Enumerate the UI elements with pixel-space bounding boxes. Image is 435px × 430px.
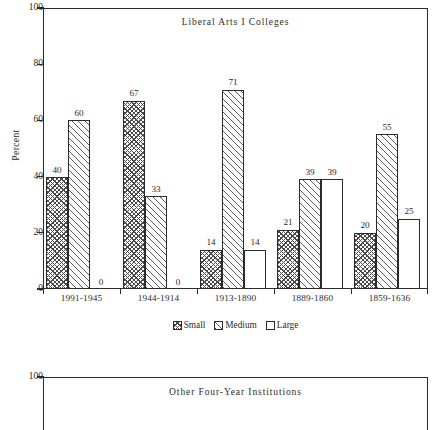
bar-large-1889-1860 bbox=[321, 179, 343, 289]
x-axis-label-1991-1945: 1991-1945 bbox=[43, 293, 120, 303]
legend-item-medium: Medium bbox=[214, 320, 257, 330]
bar-label-large-1889-1860: 39 bbox=[321, 168, 343, 177]
bar-label-small-1991-1945: 40 bbox=[46, 166, 68, 175]
y-tick-label: 80 bbox=[7, 59, 43, 69]
bar-label-medium-1889-1860: 39 bbox=[299, 168, 321, 177]
legend-swatch-medium-icon bbox=[214, 321, 223, 330]
bar-label-medium-1859-1636: 55 bbox=[376, 123, 398, 132]
bar-label-large-1991-1945: 0 bbox=[90, 278, 112, 287]
legend-swatch-large-icon bbox=[266, 321, 275, 330]
chart-title-panel2: Other Four-Year Institutions bbox=[43, 387, 428, 397]
bar-label-medium-1991-1945: 60 bbox=[68, 109, 90, 118]
y-tick-label: 40 bbox=[7, 172, 43, 182]
legend-label-medium: Medium bbox=[225, 320, 257, 330]
y-tick-label: 60 bbox=[7, 115, 43, 125]
y-tick-label: 0 bbox=[7, 284, 43, 294]
chart-panel-other-four-year: 100 Other Four-Year Institutions bbox=[0, 360, 435, 430]
figure-container: Liberal Arts I Colleges Percent 0 20 40 … bbox=[0, 0, 435, 430]
bar-medium-1944-1914 bbox=[145, 196, 167, 289]
bar-small-1944-1914 bbox=[123, 101, 145, 289]
x-axis-label-1944-1914: 1944-1914 bbox=[120, 293, 197, 303]
bar-small-1859-1636 bbox=[354, 233, 376, 289]
bar-medium-1913-1890 bbox=[222, 90, 244, 290]
bar-label-small-1913-1890: 14 bbox=[200, 238, 222, 247]
bar-large-1859-1636 bbox=[398, 219, 420, 289]
y-tick-label: 100 bbox=[7, 3, 43, 13]
chart-title-panel1: Liberal Arts I Colleges bbox=[43, 17, 428, 27]
bar-medium-1889-1860 bbox=[299, 179, 321, 289]
bar-label-large-1859-1636: 25 bbox=[398, 207, 420, 216]
bar-label-large-1944-1914: 0 bbox=[167, 278, 189, 287]
legend-label-small: Small bbox=[184, 320, 206, 330]
bar-medium-1991-1945 bbox=[68, 120, 90, 289]
x-axis-label-1913-1890: 1913-1890 bbox=[197, 293, 274, 303]
bar-label-large-1913-1890: 14 bbox=[244, 238, 266, 247]
chart-panel-liberal-arts: Liberal Arts I Colleges Percent 0 20 40 … bbox=[0, 0, 435, 345]
bar-label-medium-1944-1914: 33 bbox=[145, 185, 167, 194]
bar-label-small-1944-1914: 67 bbox=[123, 89, 145, 98]
bar-label-medium-1913-1890: 71 bbox=[222, 78, 244, 87]
bar-small-1913-1890 bbox=[200, 250, 222, 289]
bar-small-1889-1860 bbox=[277, 230, 299, 289]
legend-swatch-small-icon bbox=[173, 321, 182, 330]
chart-legend-panel1: Small Medium Large bbox=[43, 320, 428, 330]
bar-large-1913-1890 bbox=[244, 250, 266, 289]
legend-item-small: Small bbox=[173, 320, 206, 330]
plot-frame-panel2 bbox=[43, 377, 428, 430]
legend-label-large: Large bbox=[277, 320, 299, 330]
bar-label-small-1889-1860: 21 bbox=[277, 218, 299, 227]
bar-medium-1859-1636 bbox=[376, 134, 398, 289]
bar-label-small-1859-1636: 20 bbox=[354, 221, 376, 230]
x-axis-label-1859-1636: 1859-1636 bbox=[351, 293, 428, 303]
x-axis-label-1889-1860: 1889-1860 bbox=[274, 293, 351, 303]
y-tick-label: 20 bbox=[7, 228, 43, 238]
legend-item-large: Large bbox=[266, 320, 299, 330]
bar-small-1991-1945 bbox=[46, 177, 68, 289]
y-tick-label: 100 bbox=[7, 372, 43, 382]
